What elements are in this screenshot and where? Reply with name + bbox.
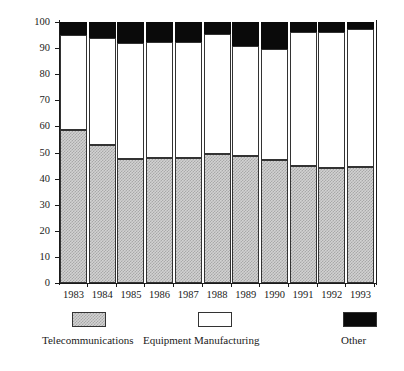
bar-1988[interactable] [204, 22, 231, 283]
bar-segment-telecommunications[interactable] [117, 159, 144, 283]
legend-swatch-other [343, 312, 377, 327]
bar-segment-telecommunications[interactable] [175, 158, 202, 283]
bar-segment-other[interactable] [232, 22, 259, 45]
x-tick-mark [374, 283, 375, 287]
bar-segment-telecommunications[interactable] [290, 166, 317, 283]
bar-segment-telecommunications[interactable] [89, 145, 116, 283]
bar-segment-equipment-manufacturing[interactable] [89, 38, 116, 145]
bar-segment-other[interactable] [290, 22, 317, 32]
bar-segment-equipment-manufacturing[interactable] [290, 32, 317, 165]
legend-swatch-equipment-manufacturing [198, 312, 232, 327]
bar-segment-telecommunications[interactable] [318, 168, 345, 283]
legend-label-other: Other [341, 334, 377, 347]
bar-segment-equipment-manufacturing[interactable] [347, 29, 374, 167]
plot-right-border [376, 20, 377, 285]
bar-segment-telecommunications[interactable] [60, 130, 87, 283]
x-tick-mark [317, 283, 318, 287]
bar-segment-equipment-manufacturing[interactable] [146, 42, 173, 158]
bar-1987[interactable] [175, 22, 202, 283]
bar-1990[interactable] [261, 22, 288, 283]
legend-label-telecommunications: Telecommunications [42, 334, 133, 347]
y-tick-label: 100 [22, 16, 50, 27]
bar-segment-equipment-manufacturing[interactable] [232, 46, 259, 157]
bar-segment-other[interactable] [146, 22, 173, 42]
bar-segment-equipment-manufacturing[interactable] [318, 32, 345, 168]
legend-item-other[interactable]: Other [343, 312, 377, 347]
x-tick-mark [173, 283, 174, 287]
bar-segment-equipment-manufacturing[interactable] [60, 35, 87, 130]
bar-segment-equipment-manufacturing[interactable] [261, 49, 288, 160]
bar-1993[interactable] [347, 22, 374, 283]
y-tick-label: 10 [22, 251, 50, 262]
x-tick-mark [259, 283, 260, 287]
bar-segment-telecommunications[interactable] [261, 160, 288, 283]
bar-segment-equipment-manufacturing[interactable] [204, 34, 231, 154]
bar-segment-other[interactable] [60, 22, 87, 35]
bar-segment-other[interactable] [204, 22, 231, 34]
legend-label-equipment-manufacturing: Equipment Manufacturing [143, 334, 259, 347]
bar-segment-equipment-manufacturing[interactable] [117, 43, 144, 159]
y-tick-label: 50 [22, 147, 50, 158]
y-tick-label: 90 [22, 42, 50, 53]
chart-legend: Telecommunications Equipment Manufacturi… [0, 312, 404, 362]
bar-1991[interactable] [290, 22, 317, 283]
y-tick-label: 80 [22, 68, 50, 79]
x-tick-mark [144, 283, 145, 287]
bar-1992[interactable] [318, 22, 345, 283]
y-tick-label: 0 [22, 277, 50, 288]
bar-segment-other[interactable] [175, 22, 202, 42]
x-axis-line [59, 283, 377, 284]
bar-segment-telecommunications[interactable] [146, 158, 173, 283]
x-tick-label-1993: 1993 [341, 289, 381, 301]
bar-1984[interactable] [89, 22, 116, 283]
bar-segment-other[interactable] [117, 22, 144, 43]
y-tick-label: 70 [22, 94, 50, 105]
x-tick-mark [345, 283, 346, 287]
bar-segment-telecommunications[interactable] [232, 156, 259, 283]
x-tick-mark [87, 283, 88, 287]
bar-1986[interactable] [146, 22, 173, 283]
y-tick-label: 40 [22, 173, 50, 184]
bar-segment-other[interactable] [89, 22, 116, 38]
bar-segment-equipment-manufacturing[interactable] [175, 42, 202, 158]
chart-figure: Revenue in % 0102030405060708090100 1983… [0, 0, 404, 371]
x-tick-mark [288, 283, 289, 287]
bar-segment-other[interactable] [261, 22, 288, 49]
bar-1989[interactable] [232, 22, 259, 283]
bar-1983[interactable] [60, 22, 87, 283]
bar-segment-other[interactable] [318, 22, 345, 32]
plot-area [60, 22, 376, 283]
bar-segment-telecommunications[interactable] [204, 154, 231, 283]
bar-segment-telecommunications[interactable] [347, 167, 374, 283]
legend-item-equipment-manufacturing[interactable]: Equipment Manufacturing [198, 312, 259, 347]
x-tick-mark [202, 283, 203, 287]
y-tick-label: 60 [22, 120, 50, 131]
bar-1985[interactable] [117, 22, 144, 283]
y-tick-label: 30 [22, 199, 50, 210]
x-tick-mark [231, 283, 232, 287]
y-tick-label: 20 [22, 225, 50, 236]
legend-swatch-telecommunications [72, 312, 106, 327]
x-tick-mark [116, 283, 117, 287]
bar-segment-other[interactable] [347, 22, 374, 29]
legend-item-telecommunications[interactable]: Telecommunications [72, 312, 133, 347]
